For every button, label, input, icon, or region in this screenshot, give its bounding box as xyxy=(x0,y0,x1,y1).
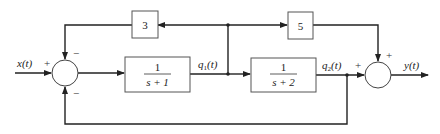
q2-branch-node xyxy=(345,73,349,77)
left-sum-bottom-sign: − xyxy=(73,87,79,99)
q1-top-branch-node xyxy=(226,23,230,27)
g2-numerator: 1 xyxy=(281,61,287,73)
input-label-x: x(t) xyxy=(16,57,33,70)
right-sum-left-sign: + xyxy=(355,59,361,71)
right-summing-junction xyxy=(365,62,391,88)
left-summing-junction xyxy=(52,60,78,86)
block-diagram: + − − + + 1 s + 1 1 s + 2 3 5 x(t) q1(t)… xyxy=(0,0,440,134)
q1-label: q1(t) xyxy=(198,58,218,72)
gain-5-value: 5 xyxy=(298,20,304,32)
q1-branch-node xyxy=(226,72,230,76)
g1-denominator: s + 1 xyxy=(146,76,169,88)
gain-block-5: 5 xyxy=(288,12,313,39)
transfer-block-g1: 1 s + 1 xyxy=(125,57,190,92)
gain-block-3: 3 xyxy=(132,11,158,38)
right-sum-top-sign: + xyxy=(386,49,392,61)
g2-denominator: s + 2 xyxy=(272,76,295,88)
gain-3-value: 3 xyxy=(142,19,148,31)
g1-numerator: 1 xyxy=(155,61,161,73)
left-sum-top-sign: − xyxy=(73,47,79,59)
q2-label: q2(t) xyxy=(322,59,342,73)
transfer-block-g2: 1 s + 2 xyxy=(251,58,316,92)
k5-feedforward-line xyxy=(313,25,378,61)
output-label-y: y(t) xyxy=(403,59,420,72)
left-sum-input-sign: + xyxy=(44,57,50,69)
